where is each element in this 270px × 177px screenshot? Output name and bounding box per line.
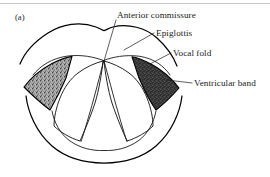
label-vocal-fold: Vocal fold <box>173 48 212 58</box>
figure-panel: (a) Anterior commissure Epiglottis Vocal… <box>0 0 270 177</box>
label-ventricular-band: Ventricular band <box>194 78 256 88</box>
panel-tag: (a) <box>15 12 25 22</box>
leader-vocal-fold <box>150 53 171 64</box>
label-epiglottis: Epiglottis <box>156 28 193 38</box>
label-anterior-commissure: Anterior commissure <box>117 10 196 20</box>
leader-anterior-commissure <box>104 20 116 61</box>
laryngoscopic-view-diagram: (a) Anterior commissure Epiglottis Vocal… <box>0 0 270 177</box>
leader-epiglottis <box>124 33 154 50</box>
epiglottis-outline <box>20 24 177 66</box>
